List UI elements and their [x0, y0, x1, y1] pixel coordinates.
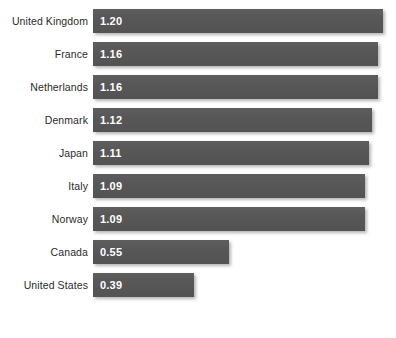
bar-row: United States0.39 [0, 273, 396, 297]
bar-row: Norway1.09 [0, 207, 396, 231]
bar: 0.55 [93, 240, 229, 264]
bar: 1.16 [93, 75, 378, 99]
category-label: Canada [0, 246, 88, 258]
category-label: United States [0, 279, 88, 291]
bar: 1.16 [93, 42, 378, 66]
category-label: Japan [0, 147, 88, 159]
bar: 0.39 [93, 273, 194, 297]
bar-value-label: 1.16 [93, 48, 122, 60]
bar-row: Netherlands1.16 [0, 75, 396, 99]
bar-row: Italy1.09 [0, 174, 396, 198]
bar-wrapper: 0.55 [93, 240, 229, 264]
bar: 1.20 [93, 9, 383, 33]
bar-row: Canada0.55 [0, 240, 396, 264]
bar-value-label: 0.39 [93, 279, 122, 291]
bar-value-label: 1.12 [93, 114, 122, 126]
bar: 1.11 [93, 141, 369, 165]
bar-wrapper: 1.16 [93, 42, 378, 66]
category-label: France [0, 48, 88, 60]
bar-wrapper: 1.16 [93, 75, 378, 99]
category-label: Denmark [0, 114, 88, 126]
bar: 1.09 [93, 174, 365, 198]
bar-wrapper: 1.09 [93, 174, 365, 198]
bar: 1.12 [93, 108, 372, 132]
bar-row: United Kingdom1.20 [0, 9, 396, 33]
bar-value-label: 0.55 [93, 246, 122, 258]
bar-wrapper: 1.11 [93, 141, 369, 165]
bar-row: Japan1.11 [0, 141, 396, 165]
bar-value-label: 1.20 [93, 15, 122, 27]
bar-value-label: 1.09 [93, 180, 122, 192]
bar-wrapper: 1.20 [93, 9, 383, 33]
category-label: Italy [0, 180, 88, 192]
bar-wrapper: 1.12 [93, 108, 372, 132]
horizontal-bar-chart: United Kingdom1.20France1.16Netherlands1… [0, 0, 396, 338]
bar-value-label: 1.09 [93, 213, 122, 225]
bar-wrapper: 0.39 [93, 273, 194, 297]
bar-row: France1.16 [0, 42, 396, 66]
bar-row: Denmark1.12 [0, 108, 396, 132]
category-label: Netherlands [0, 81, 88, 93]
bar-value-label: 1.16 [93, 81, 122, 93]
category-label: Norway [0, 213, 88, 225]
bar-wrapper: 1.09 [93, 207, 365, 231]
category-label: United Kingdom [0, 15, 88, 27]
bar-value-label: 1.11 [93, 147, 122, 159]
bar: 1.09 [93, 207, 365, 231]
